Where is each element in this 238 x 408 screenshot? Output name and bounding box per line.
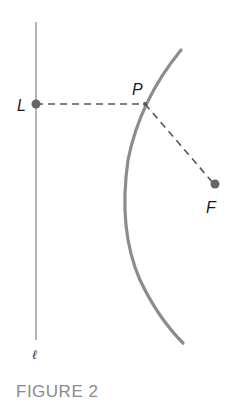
label-line-l: ℓ	[32, 347, 38, 362]
point-L-dot	[32, 100, 41, 109]
parabola-diagram: L P F ℓ FIGURE 2	[0, 0, 238, 408]
label-F: F	[206, 199, 217, 216]
point-F-dot	[211, 180, 220, 189]
label-P: P	[132, 81, 143, 98]
dashed-segment-PF	[145, 104, 214, 184]
label-L: L	[17, 97, 26, 114]
figure-caption: FIGURE 2	[16, 382, 98, 401]
point-P-dot	[143, 102, 147, 106]
